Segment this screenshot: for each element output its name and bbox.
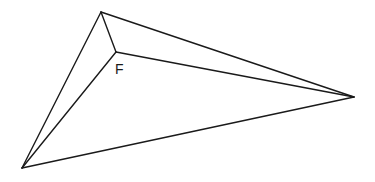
edge-top-bottom-left: [22, 12, 101, 168]
triangle-edges: [22, 12, 354, 168]
point-label-f: F: [115, 61, 124, 77]
edge-top-right: [101, 12, 354, 97]
geometry-diagram: F: [0, 0, 375, 182]
edge-F-right: [116, 52, 354, 97]
edge-F-top: [101, 12, 116, 52]
point-labels: F: [115, 61, 124, 77]
